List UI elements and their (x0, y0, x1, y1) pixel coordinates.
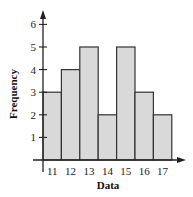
y-tick-label: 4 (31, 64, 37, 76)
histogram-chart: 123456 11121314151617 Data Frequency (0, 0, 193, 197)
y-tick-label: 6 (31, 18, 37, 30)
y-tick-label: 1 (31, 131, 37, 143)
x-tick-label: 13 (84, 165, 96, 177)
histogram-bar (61, 70, 79, 160)
y-axis-title: Frequency (7, 69, 19, 119)
histogram-bar (80, 47, 98, 160)
y-tick-label: 5 (31, 41, 37, 53)
histogram-bar (135, 92, 153, 160)
x-tick-label: 15 (120, 165, 132, 177)
y-axis-arrow-icon (40, 10, 46, 19)
x-tick-label: 14 (102, 165, 114, 177)
histogram-bar (153, 115, 171, 160)
y-tick-label: 3 (31, 86, 37, 98)
x-tick-label: 17 (157, 165, 169, 177)
x-tick-label: 12 (65, 165, 76, 177)
histogram-bar (98, 115, 116, 160)
x-tick-label: 11 (47, 165, 58, 177)
x-tick-label: 16 (139, 165, 151, 177)
histogram-bar (43, 92, 61, 160)
y-tick-label: 2 (31, 109, 37, 121)
histogram-bar (117, 47, 135, 160)
x-tick-labels: 11121314151617 (47, 165, 169, 177)
bars-group (43, 47, 172, 160)
x-axis-arrow-icon (177, 157, 186, 163)
x-axis-title: Data (97, 179, 120, 191)
